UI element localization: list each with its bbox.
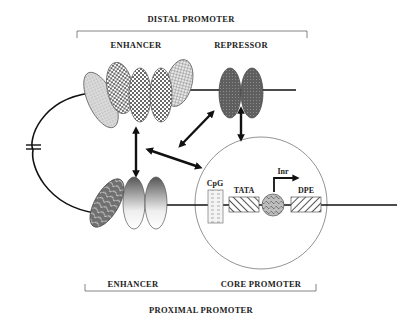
enhancer-protein-4 <box>150 68 172 122</box>
repressor-label: REPRESSOR <box>214 40 268 50</box>
repressor-protein-2 <box>241 68 263 118</box>
enhancer-core-arrow-icon <box>149 150 199 167</box>
transcription-start-arrow-icon <box>274 178 296 192</box>
cpg-label: CpG <box>207 179 223 188</box>
distal-promoter-label: DISTAL PROMOTER <box>147 14 235 24</box>
proximal-enhancer-label: ENHANCER <box>107 279 159 289</box>
dna-break-icon <box>26 145 41 149</box>
repressor-enhancer-arrow-icon <box>181 113 212 145</box>
promoter-diagram: DISTAL PROMOTER ENHANCER REPRESSOR CpG T… <box>0 0 414 319</box>
tata-element <box>229 197 259 212</box>
dpe-element <box>291 197 321 212</box>
tata-label: TATA <box>234 186 255 195</box>
core-promoter-label: CORE PROMOTER <box>221 279 302 289</box>
proximal-enhancer-proteins <box>83 174 167 233</box>
inr-element <box>262 194 284 216</box>
proximal-protein-3 <box>145 177 167 229</box>
proximal-protein-2 <box>123 177 145 229</box>
cpg-element <box>208 190 223 223</box>
distal-enhancer-label: ENHANCER <box>110 40 162 50</box>
enhancer-protein-3 <box>129 68 151 122</box>
dna-loop <box>32 93 95 213</box>
dpe-label: DPE <box>298 186 314 195</box>
repressor-protein-1 <box>219 68 241 118</box>
distal-promoter-bracket <box>77 31 307 38</box>
distal-enhancer-proteins <box>77 56 198 132</box>
inr-label: Inr <box>277 167 289 176</box>
proximal-promoter-label: PROXIMAL PROMOTER <box>149 305 254 315</box>
